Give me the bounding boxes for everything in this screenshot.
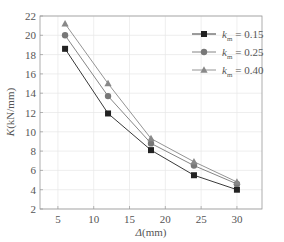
x-axis-label: Δ(mm)	[135, 226, 167, 239]
y-tick-label: 12	[25, 107, 36, 119]
x-tick-label: 15	[124, 213, 136, 225]
square-marker	[148, 147, 154, 153]
x-tick-label: 25	[196, 213, 208, 225]
line-chart: 246810121416182022 51015202530 km= 0.15k…	[0, 0, 284, 242]
series-circle	[62, 32, 240, 187]
square-marker	[62, 46, 68, 52]
y-tick-label: 22	[25, 10, 36, 22]
y-axis-label: K(kN/mm)	[4, 88, 17, 138]
x-tick-label: 20	[160, 213, 172, 225]
legend-label: km= 0.40	[222, 64, 264, 79]
y-tick-label: 20	[25, 29, 37, 41]
y-tick-label: 6	[31, 164, 37, 176]
circle-marker	[201, 49, 207, 55]
legend: km= 0.15km= 0.25km= 0.40	[192, 28, 264, 79]
y-tick-label: 10	[25, 126, 37, 138]
triangle-marker	[190, 158, 197, 165]
legend-item: km= 0.40	[192, 64, 264, 79]
y-tick-label: 2	[31, 203, 37, 215]
legend-label: km= 0.15	[222, 28, 264, 43]
circle-marker	[105, 93, 111, 99]
circle-marker	[62, 32, 68, 38]
y-tick-label: 4	[31, 184, 37, 196]
y-tick-label: 18	[25, 49, 37, 61]
series-lines	[61, 20, 240, 193]
square-marker	[191, 172, 197, 178]
legend-label: km= 0.25	[222, 46, 264, 61]
square-marker	[201, 31, 207, 37]
x-tick-label: 5	[55, 213, 61, 225]
square-marker	[105, 110, 111, 116]
y-tick-label: 8	[31, 145, 37, 157]
legend-item: km= 0.25	[192, 46, 264, 61]
x-tick-label: 10	[88, 213, 100, 225]
y-tick-label: 16	[25, 68, 37, 80]
y-tick-label: 14	[25, 87, 37, 99]
square-marker	[234, 187, 240, 193]
triangle-marker	[233, 178, 240, 185]
triangle-marker	[61, 20, 68, 27]
legend-item: km= 0.15	[192, 28, 264, 43]
x-tick-label: 30	[231, 213, 243, 225]
series-triangle	[61, 20, 240, 185]
triangle-marker	[200, 66, 207, 73]
